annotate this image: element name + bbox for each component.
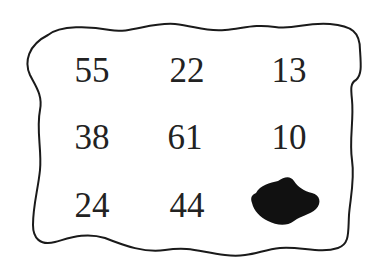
cell-r2-c3: 10 bbox=[272, 120, 307, 155]
cell-r2-c1: 38 bbox=[75, 120, 110, 155]
cell-r3-c2: 44 bbox=[170, 188, 205, 223]
cell-r1-c1: 55 bbox=[75, 53, 110, 88]
cell-r3-c1: 24 bbox=[75, 188, 110, 223]
cell-r2-c2: 61 bbox=[168, 120, 203, 155]
cell-r1-c2: 22 bbox=[170, 53, 205, 88]
cell-r1-c3: 13 bbox=[272, 53, 307, 88]
ink-blot-hidden-cell bbox=[250, 175, 322, 227]
